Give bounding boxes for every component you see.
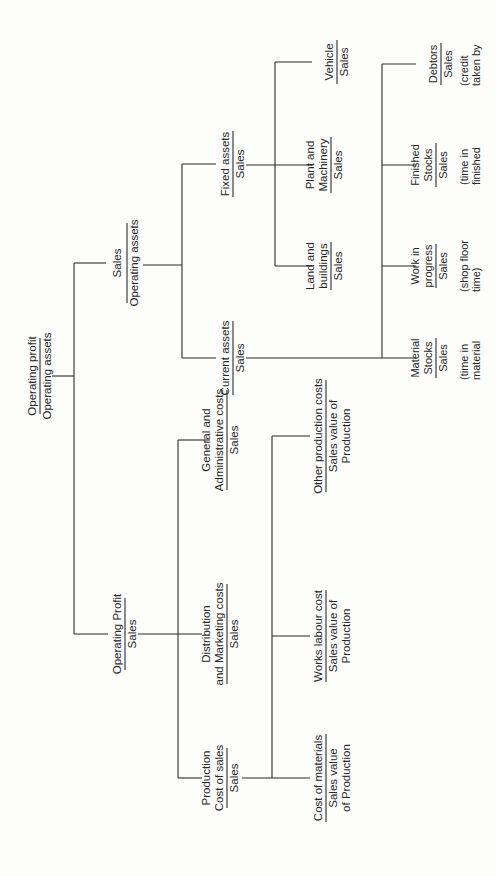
node-general-admin: General and Administrative costs Sales [200,389,240,492]
asset-turnover-numerator: Sales [111,248,123,277]
land-numerator-line2: buildings [317,243,329,289]
materials-numerator: Cost of materials [312,735,324,822]
material-denominator: Sales [437,344,449,372]
general-denominator: Sales [228,425,240,454]
profit-margin-denominator: Sales [126,619,138,648]
root-numerator: Operating profit [26,336,38,416]
fixed-assets-numerator: Fixed assets [219,131,231,196]
labour-denominator-line2: Production [340,609,352,664]
node-land-buildings: Land and buildings Sales [304,242,344,290]
node-finished-stocks: Finished Stocks Sales (time in finished [409,143,482,187]
node-production-cost: Production Cost of sales Sales [200,745,240,812]
production-denominator: Sales [228,763,240,792]
finished-numerator-line2: Stocks [422,148,434,182]
current-assets-numerator: Current assets [219,320,231,395]
node-distribution-marketing: Distribution and Marketing costs Sales [200,582,240,685]
finished-denominator: Sales [437,151,449,179]
node-fixed-assets: Fixed assets Sales [219,131,246,197]
ratio-tree-svg: Operating profit Operating assets Sales … [0,0,496,876]
materials-denominator-line1: Sales value [327,748,339,807]
finished-note-line2: finished [470,147,482,185]
plant-numerator-line2: Machinery [317,138,329,191]
node-plant-machinery: Plant and Machinery Sales [304,137,344,193]
wip-denominator: Sales [437,252,449,280]
general-numerator-line2: Administrative costs [213,389,225,492]
production-numerator-line2: Cost of sales [213,745,225,812]
material-note-line1: (time in [458,344,470,380]
land-numerator-line1: Land and [304,242,316,290]
finished-numerator-line1: Finished [409,144,421,186]
debtors-numerator: Debtors [427,44,439,83]
land-denominator: Sales [332,251,344,280]
wip-note-line2: time) [470,268,482,292]
labour-numerator: Works labour cost [312,589,324,682]
root-denominator: Operating assets [41,332,53,419]
material-numerator-line1: Material [409,338,421,377]
finished-note-line1: (time in [458,149,470,185]
node-asset-turnover: Sales Operating assets [111,219,140,306]
general-numerator-line1: General and [200,408,212,471]
node-vehicle: Vehicle Sales [323,40,350,84]
wip-numerator-line1: Work in [409,247,421,284]
node-works-labour: Works labour cost Sales value of Product… [312,589,352,682]
materials-denominator-line2: of Production [340,744,352,812]
fixed-assets-denominator: Sales [234,149,246,178]
node-root: Operating profit Operating assets [26,332,53,419]
plant-numerator-line1: Plant and [304,141,316,190]
plant-denominator: Sales [332,150,344,179]
distribution-numerator-line2: and Marketing costs [213,582,225,685]
node-work-in-progress: Work in progress Sales (shop floor time) [409,240,482,292]
node-other-production: Other production costs Sales value of Pr… [312,378,352,494]
other-denominator-line1: Sales value of [327,399,339,472]
asset-turnover-denominator: Operating assets [128,219,140,306]
node-debtors: Debtors Sales (credit taken by [427,43,482,86]
vehicle-denominator: Sales [338,47,350,76]
wip-note-line1: (shop floor [458,240,470,292]
node-material-stocks: Material Stocks Sales (time in material [409,338,482,380]
distribution-denominator: Sales [228,619,240,648]
profit-margin-numerator: Operating Profit [111,593,123,674]
vehicle-numerator: Vehicle [323,43,335,80]
debtors-denominator: Sales [442,50,454,78]
debtors-note-line1: (credit [458,55,470,86]
other-denominator-line2: Production [340,409,352,464]
debtors-note-line2: taken by [470,44,482,86]
node-cost-of-materials: Cost of materials Sales value of Product… [312,734,352,822]
node-current-assets: Current assets Sales [219,320,246,395]
production-numerator-line1: Production [200,751,212,806]
node-profit-margin: Operating Profit Sales [111,593,138,674]
current-assets-denominator: Sales [234,343,246,372]
material-note-line2: material [470,341,482,380]
wip-numerator-line2: progress [422,244,434,287]
other-numerator: Other production costs [312,378,324,494]
distribution-numerator-line1: Distribution [200,605,212,663]
material-numerator-line2: Stocks [422,341,434,375]
labour-denominator-line1: Sales value of [327,599,339,672]
diagram-canvas: Operating profit Operating assets Sales … [0,0,496,876]
